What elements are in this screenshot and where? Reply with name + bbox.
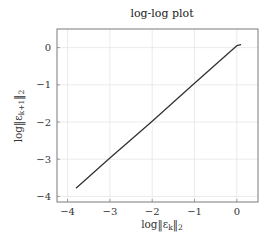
x-tick-label: −4 xyxy=(60,206,75,217)
y-tick-label: −3 xyxy=(36,154,51,165)
x-axis-label: log‖εk‖2 xyxy=(141,218,183,232)
y-tick-label: 0 xyxy=(45,42,51,53)
y-tick-label: −4 xyxy=(36,191,51,202)
x-tick-label: 0 xyxy=(234,206,240,217)
data-series xyxy=(76,45,241,189)
y-tick-label: −1 xyxy=(36,79,51,90)
x-tick-label: −2 xyxy=(145,206,160,217)
plot-frame xyxy=(57,29,258,202)
log-log-chart: log-log plot −4−3−2−10−4−3−2−10 log‖εk‖2… xyxy=(0,0,272,242)
y-tick-label: −2 xyxy=(36,117,51,128)
y-axis-label: log‖εk+1‖2 xyxy=(12,89,26,142)
series-line xyxy=(76,45,241,189)
grid-lines xyxy=(57,29,258,202)
chart-title: log-log plot xyxy=(130,7,194,20)
x-tick-label: −1 xyxy=(187,206,202,217)
x-tick-label: −3 xyxy=(103,206,118,217)
axis-ticks: −4−3−2−10−4−3−2−10 xyxy=(36,42,240,217)
